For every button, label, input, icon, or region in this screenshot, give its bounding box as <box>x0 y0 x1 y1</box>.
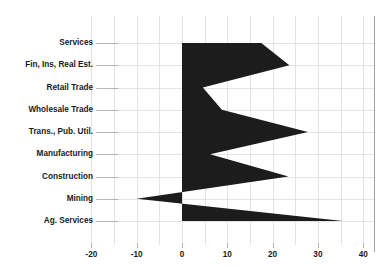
category-label-4: Trans., Pub. Util. <box>29 127 93 136</box>
category-label-5: Manufacturing <box>37 149 93 158</box>
x-tick-label-40: 40 <box>359 250 369 259</box>
area-chart: ServicesFin, Ins, Real Est.Retail TradeW… <box>0 0 382 276</box>
category-label-3: Wholesale Trade <box>28 105 93 114</box>
x-tick-label--20: -20 <box>85 250 97 259</box>
x-tick-label-0: 0 <box>180 250 185 259</box>
x-tick-label-20: 20 <box>268 250 278 259</box>
category-label-8: Ag. Services <box>44 216 94 225</box>
category-label-7: Mining <box>67 194 93 203</box>
x-tick-label-10: 10 <box>223 250 233 259</box>
category-label-0: Services <box>59 38 93 47</box>
category-label-2: Retail Trade <box>47 83 94 92</box>
category-label-6: Construction <box>42 172 93 181</box>
category-label-1: Fin, Ins, Real Est. <box>25 60 93 69</box>
x-tick-label-30: 30 <box>313 250 323 259</box>
x-tick-label--10: -10 <box>131 250 143 259</box>
chart-container: ServicesFin, Ins, Real Est.Retail TradeW… <box>0 0 382 276</box>
